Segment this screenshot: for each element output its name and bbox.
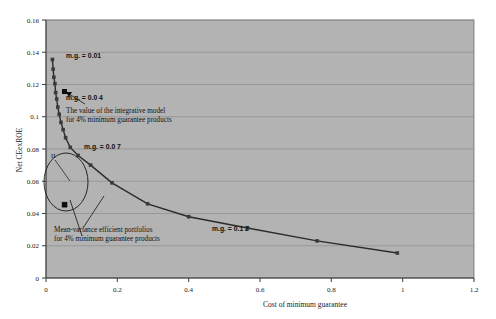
x-tick-label: 0.8	[327, 286, 336, 294]
data-point-marker	[59, 121, 63, 125]
data-point-marker	[57, 113, 61, 117]
x-tick-label: 0.2	[113, 286, 122, 294]
y-tick-label: 0.12	[27, 81, 40, 89]
data-point-marker	[315, 239, 319, 243]
x-tick-label: 0.6	[256, 286, 265, 294]
data-point-marker	[51, 58, 55, 62]
data-point-marker	[146, 202, 150, 206]
y-axis-title: Net CEexROE	[15, 127, 24, 172]
y-tick-marks	[42, 20, 46, 278]
data-point-marker	[110, 181, 114, 185]
data-point-marker	[187, 215, 191, 219]
data-point-marker	[64, 136, 68, 140]
annotation-integrative-line2: for 4% minimum guarantee products	[66, 116, 172, 124]
y-tick-label: 0.06	[27, 178, 40, 186]
y-tick-label: 0.14	[27, 49, 40, 57]
chart-figure: 0.16 0.14 0.12 0.1 0.08 0.06 0.04 0.02 0…	[0, 0, 496, 319]
region-label-ii: II	[51, 152, 55, 159]
y-tick-label: 0.1	[30, 113, 39, 121]
data-point-marker	[53, 82, 57, 86]
data-point-marker	[51, 67, 55, 71]
x-tick-label: 0	[44, 286, 48, 294]
y-tick-label: 0.16	[27, 17, 40, 25]
data-point-marker	[61, 128, 65, 132]
data-point-marker	[52, 75, 56, 79]
x-tick-labels: 0 0.2 0.4 0.6 0.8 1 1.2	[44, 286, 479, 294]
y-tick-label: 0	[36, 275, 40, 283]
data-point-marker	[396, 251, 400, 255]
y-tick-labels: 0.16 0.14 0.12 0.1 0.08 0.06 0.04 0.02 0	[27, 17, 40, 283]
annotation-mg-004: m.g. = 0.0 4	[66, 94, 103, 102]
x-tick-marks	[46, 278, 474, 282]
annotation-meanvariance-line1: Mean-variance efficient portfolios	[54, 226, 153, 234]
y-tick-label: 0.02	[27, 242, 40, 250]
annotation-integrative-line1: The value of the integrative model	[66, 107, 165, 115]
annotation-mg-012: m.g. = 0.1 2	[212, 225, 249, 233]
highlight-point-marker	[62, 202, 67, 207]
annotation-mg-001: m.g. = 0.01	[66, 52, 101, 60]
x-tick-label: 1.2	[470, 286, 479, 294]
annotation-mg-007: m.g. = 0.0 7	[84, 143, 121, 151]
data-point-marker	[56, 105, 60, 109]
data-point-marker	[89, 163, 93, 167]
data-point-marker	[54, 91, 58, 95]
y-tick-label: 0.04	[27, 210, 40, 218]
annotation-meanvariance-line2: for 4% minimum guarantee products	[54, 235, 160, 243]
y-tick-label: 0.08	[27, 146, 40, 154]
data-point-marker	[68, 146, 72, 150]
x-tick-label: 0.4	[184, 286, 193, 294]
data-point-marker	[55, 97, 59, 101]
x-tick-label: 1	[401, 286, 405, 294]
chart-svg: 0.16 0.14 0.12 0.1 0.08 0.06 0.04 0.02 0…	[0, 0, 496, 319]
x-axis-title: Cost of minimum guarantee	[263, 300, 348, 309]
